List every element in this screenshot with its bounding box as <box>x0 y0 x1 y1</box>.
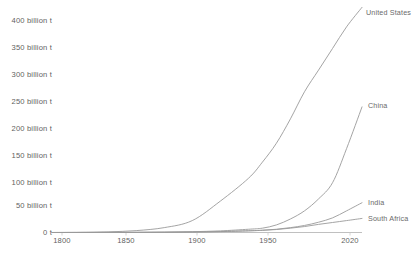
series-label-united-states: United States <box>366 8 411 17</box>
plot-area <box>0 0 413 253</box>
series-label-china: China <box>368 101 388 110</box>
series-label-south-africa: South Africa <box>368 214 408 223</box>
series-label-india: India <box>368 198 384 207</box>
x-tick-label: 1950 <box>259 236 277 245</box>
x-tick-label: 2020 <box>341 236 359 245</box>
series-line-china <box>52 107 362 233</box>
series-line-india <box>52 203 362 233</box>
x-tick-label: 1850 <box>117 236 135 245</box>
cumulative-emissions-chart: 400 billion t 350 billion t 300 billion … <box>0 0 413 253</box>
x-tick-label: 1800 <box>53 236 71 245</box>
x-tick-label: 1900 <box>188 236 206 245</box>
series-line-south-africa <box>52 218 362 232</box>
series-line-united-states <box>52 7 362 232</box>
